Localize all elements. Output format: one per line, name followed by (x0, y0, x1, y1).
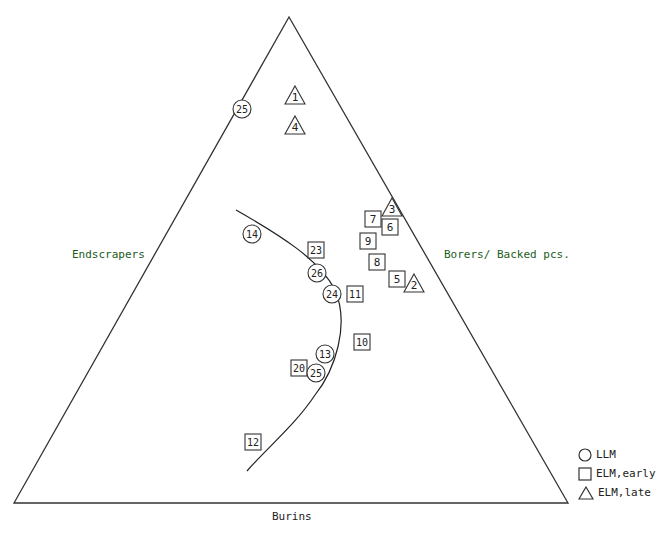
data-point-square: 5 (389, 271, 405, 287)
data-point-triangle: 1 (285, 86, 305, 104)
legend-label: ELM,early (596, 467, 656, 480)
svg-text:24: 24 (326, 289, 338, 300)
data-point-square: 11 (347, 286, 363, 302)
svg-text:2: 2 (411, 279, 418, 292)
svg-text:7: 7 (370, 213, 377, 226)
data-point-square: 6 (382, 219, 398, 235)
data-point-square: 23 (308, 242, 324, 258)
data-point-circle: 26 (308, 264, 326, 282)
data-point-triangle: 3 (382, 198, 402, 216)
svg-text:9: 9 (365, 235, 372, 248)
data-point-circle: 14 (243, 225, 261, 243)
axis-label-right: Borers/ Backed pcs. (444, 248, 570, 261)
svg-text:5: 5 (394, 273, 401, 286)
legend-label: ELM,late (598, 486, 651, 499)
ternary-plot: 2514376985214232624111013202512 (0, 0, 667, 534)
circle-icon (578, 448, 592, 462)
svg-text:3: 3 (389, 203, 396, 216)
svg-text:11: 11 (349, 289, 361, 300)
svg-text:25: 25 (236, 104, 248, 115)
legend-item-elm-early: ELM,early (578, 464, 656, 483)
data-point-square: 8 (369, 254, 385, 270)
square-icon (578, 467, 592, 481)
svg-text:10: 10 (356, 337, 368, 348)
data-point-circle: 25 (307, 364, 325, 382)
svg-text:13: 13 (319, 349, 331, 360)
legend-item-llm: LLM (578, 445, 656, 464)
legend-item-elm-late: ELM,late (578, 483, 656, 502)
data-point-square: 10 (354, 334, 370, 350)
svg-text:20: 20 (293, 363, 305, 374)
data-point-circle: 25 (233, 100, 251, 118)
data-point-circle: 24 (323, 285, 341, 303)
legend-label: LLM (596, 448, 616, 461)
axis-label-bottom: Burins (272, 510, 312, 523)
data-point-circle: 13 (316, 345, 334, 363)
data-point-square: 20 (291, 360, 307, 376)
svg-text:14: 14 (246, 229, 258, 240)
data-point-triangle: 4 (285, 116, 305, 134)
data-point-square: 9 (360, 233, 376, 249)
svg-text:12: 12 (247, 437, 259, 448)
svg-text:23: 23 (310, 245, 322, 256)
legend: LLM ELM,early ELM,late (578, 445, 656, 502)
svg-text:6: 6 (387, 221, 394, 234)
svg-text:25: 25 (310, 368, 322, 379)
axis-label-left: Endscrapers (72, 248, 145, 261)
trend-curve (236, 210, 341, 471)
svg-text:4: 4 (292, 121, 299, 134)
svg-text:1: 1 (292, 91, 299, 104)
svg-text:8: 8 (374, 256, 381, 269)
data-point-triangle: 2 (404, 274, 424, 292)
data-point-square: 7 (365, 211, 381, 227)
triangle-icon (578, 486, 594, 500)
svg-text:26: 26 (311, 268, 323, 279)
data-points: 2514376985214232624111013202512 (233, 86, 424, 450)
data-point-square: 12 (245, 434, 261, 450)
